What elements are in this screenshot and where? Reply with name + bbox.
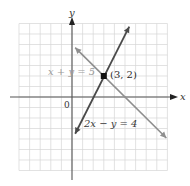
y-axis-label: y (69, 8, 75, 18)
intersection-point-marker (101, 73, 107, 79)
x-axis-label: x (180, 92, 186, 102)
intersection-point-label: (3, 2) (110, 70, 137, 80)
line2-label: 2x − y = 4 (84, 119, 138, 129)
x-axis-arrow-icon (170, 94, 178, 100)
y-axis-arrow-icon (69, 17, 75, 25)
y-axis (69, 17, 75, 180)
origin-label: 0 (64, 101, 70, 110)
coordinate-plane (0, 0, 190, 186)
line1-label: x + y = 5 (48, 67, 95, 77)
